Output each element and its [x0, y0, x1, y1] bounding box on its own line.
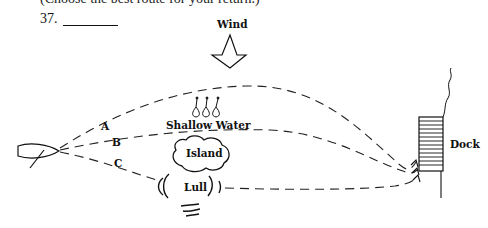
route-a-label[interactable]: A [101, 120, 109, 132]
shallow-water-label: Shallow Water [166, 119, 250, 131]
route-c-label[interactable]: C [114, 157, 122, 169]
route-b-label[interactable]: B [112, 136, 121, 148]
shallow-water-markers-icon [193, 97, 220, 117]
wind-label: Wind [217, 18, 248, 30]
wind-arrow-icon [212, 35, 246, 68]
dock-label: Dock [450, 138, 480, 150]
sailboat-icon [18, 144, 59, 168]
route-diagram [0, 0, 488, 228]
island-label: Island [186, 147, 223, 159]
lull-label: Lull [184, 181, 207, 193]
dock-icon [419, 68, 451, 198]
